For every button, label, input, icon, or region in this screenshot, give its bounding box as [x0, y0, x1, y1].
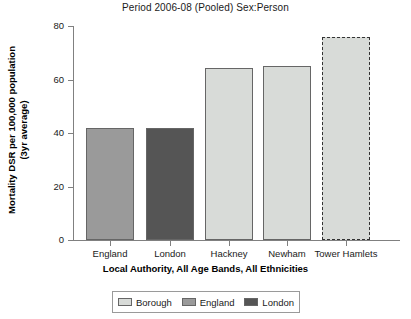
y-tick-mark	[68, 133, 73, 134]
y-axis-title-line1: Mortality DSR per 100,000 population	[6, 46, 17, 214]
legend-label: Borough	[136, 297, 172, 308]
legend-swatch-icon	[244, 298, 258, 306]
x-tick-mark	[170, 241, 171, 246]
bar-chart: Period 2006-08 (Pooled) Sex:Person 02040…	[0, 0, 411, 319]
x-axis-title: Local Authority, All Age Bands, All Ethn…	[0, 263, 411, 274]
y-tick-label: 0	[30, 235, 64, 245]
legend-item-england[interactable]: England	[182, 297, 235, 308]
x-tick-mark	[346, 241, 347, 246]
y-tick-mark	[68, 26, 73, 27]
legend-label: England	[200, 297, 235, 308]
bar-hackney	[205, 68, 253, 240]
x-tick-mark	[229, 241, 230, 246]
chart-legend: BoroughEnglandLondon	[112, 291, 300, 313]
legend-label: London	[262, 297, 294, 308]
y-axis-title: Mortality DSR per 100,000 population (3y…	[6, 30, 30, 230]
bar-england	[86, 128, 134, 240]
x-tick-mark	[287, 241, 288, 246]
legend-swatch-icon	[182, 298, 196, 306]
y-axis-title-line2: (3yr average)	[18, 30, 30, 230]
x-tick-label-tower-hamlets: Tower Hamlets	[301, 249, 391, 259]
y-tick-mark	[68, 187, 73, 188]
y-axis-line	[73, 26, 74, 241]
bar-tower-hamlets	[322, 37, 370, 240]
y-tick-label: 60	[30, 75, 64, 85]
y-tick-label: 80	[30, 21, 64, 31]
legend-item-london[interactable]: London	[244, 297, 294, 308]
x-axis-line	[73, 240, 400, 241]
chart-title: Period 2006-08 (Pooled) Sex:Person	[0, 2, 411, 13]
y-tick-mark	[68, 240, 73, 241]
bar-london	[146, 128, 194, 240]
y-tick-mark	[68, 80, 73, 81]
x-tick-mark	[110, 241, 111, 246]
y-tick-label: 40	[30, 128, 64, 138]
bar-newham	[263, 66, 311, 240]
y-tick-label: 20	[30, 182, 64, 192]
legend-swatch-icon	[118, 298, 132, 306]
legend-item-borough[interactable]: Borough	[118, 297, 172, 308]
